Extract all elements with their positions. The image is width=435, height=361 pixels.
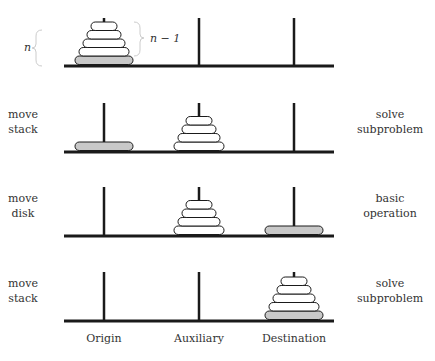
- diagram-row: movediskbasicoperation: [8, 187, 417, 236]
- disk: [91, 22, 117, 31]
- disk: [83, 39, 125, 48]
- disk: [79, 48, 129, 57]
- largest-disk: [75, 56, 133, 65]
- right-brace-icon: [134, 22, 144, 56]
- n-minus-1-label: n − 1: [150, 32, 180, 45]
- disk: [174, 226, 224, 235]
- disk: [182, 209, 216, 218]
- disk: [281, 277, 307, 286]
- step-description-label: basic: [376, 192, 405, 205]
- disk: [87, 31, 121, 40]
- largest-disk: [265, 226, 323, 235]
- peg-label-origin: Origin: [86, 332, 121, 345]
- step-action-label: move: [8, 277, 38, 290]
- peg-label-destination: Destination: [262, 332, 326, 345]
- disk: [277, 286, 311, 295]
- step-action-label: move: [8, 192, 38, 205]
- diagram-row: movestacksolvesubproblem: [8, 272, 424, 321]
- disk: [186, 201, 212, 210]
- left-brace-icon: [32, 30, 42, 66]
- step-description-label: subproblem: [357, 123, 424, 136]
- disk: [182, 125, 216, 134]
- disk: [273, 294, 315, 303]
- disk: [174, 142, 224, 151]
- n-label: n: [24, 41, 31, 54]
- diagram-row: [64, 18, 334, 66]
- largest-disk: [75, 142, 133, 151]
- step-description-label: subproblem: [357, 292, 424, 305]
- step-action-label: move: [8, 108, 38, 121]
- step-description-label: solve: [376, 108, 405, 121]
- largest-disk: [265, 311, 323, 320]
- step-description-label: operation: [363, 207, 417, 220]
- disk: [178, 134, 220, 143]
- hanoi-diagram: movestacksolvesubproblemmovediskbasicope…: [0, 0, 435, 361]
- disk: [269, 303, 319, 312]
- step-action-label: stack: [8, 292, 38, 305]
- disk: [186, 117, 212, 126]
- peg-label-auxiliary: Auxiliary: [173, 332, 225, 345]
- step-action-label: disk: [12, 207, 35, 220]
- step-description-label: solve: [376, 277, 405, 290]
- disk: [178, 218, 220, 227]
- diagram-row: movestacksolvesubproblem: [8, 103, 424, 152]
- step-action-label: stack: [8, 123, 38, 136]
